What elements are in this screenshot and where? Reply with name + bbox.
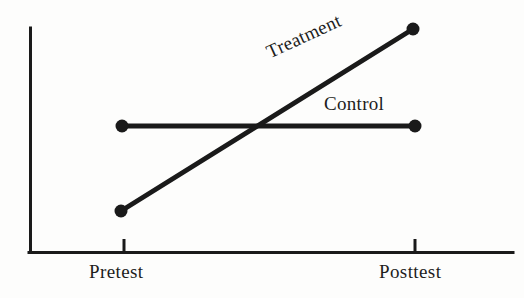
x-axis-ticks — [124, 239, 415, 252]
chart-figure: Treatment Control Pretest Posttest — [0, 0, 524, 298]
treatment-point-posttest — [407, 23, 420, 36]
treatment-line — [121, 29, 413, 211]
series-label-control: Control — [324, 93, 384, 115]
x-tick-label-posttest: Posttest — [379, 261, 441, 283]
treatment-point-pretest — [115, 205, 128, 218]
control-point-posttest — [409, 120, 422, 133]
control-point-pretest — [116, 120, 129, 133]
chart-plot-area — [0, 0, 524, 298]
x-tick-label-pretest: Pretest — [89, 261, 144, 283]
